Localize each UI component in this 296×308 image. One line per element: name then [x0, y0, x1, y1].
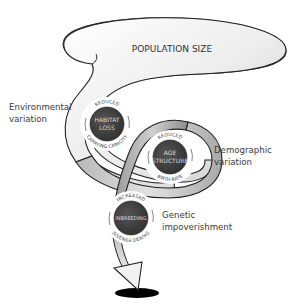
population-size-title: POPULATION SIZE: [132, 44, 213, 54]
genetic-line1: Genetic: [162, 210, 232, 222]
habitat-loss-line1: HABITAT: [94, 116, 119, 123]
habitat-loss-line2: LOSS: [99, 124, 115, 131]
age-structure-line2: STRUCTURE: [152, 157, 188, 164]
environmental-variation-label: Environmental variation: [9, 102, 72, 125]
downward-arrow-head: [114, 262, 142, 290]
inbreeding-line1: INBREEDING: [115, 215, 147, 221]
demographic-line2: variation: [214, 157, 272, 169]
environmental-line1: Environmental: [9, 102, 72, 114]
age-structure-line1: AGE: [164, 149, 177, 156]
demographic-variation-label: Demographic variation: [214, 145, 272, 168]
genetic-line2: impoverishment: [162, 222, 232, 234]
genetic-impoverishment-label: Genetic impoverishment: [162, 210, 232, 233]
environmental-line2: variation: [9, 114, 72, 126]
demographic-line1: Demographic: [214, 145, 272, 157]
